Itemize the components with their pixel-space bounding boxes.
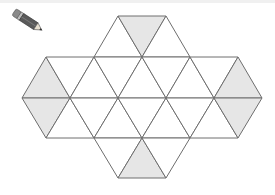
pencil-icon (12, 9, 45, 34)
triangle-grid-figure (0, 0, 275, 195)
triangle-grid (22, 16, 262, 178)
